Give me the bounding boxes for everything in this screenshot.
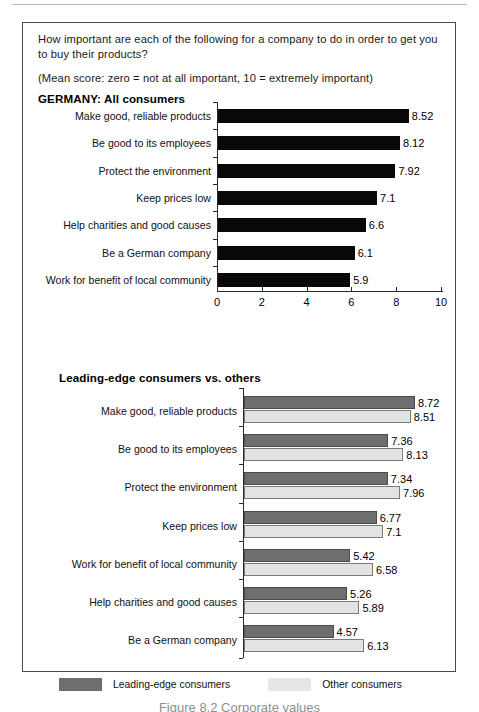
chart2-bar-value: 8.51 [414, 411, 435, 423]
page-top-rule [12, 4, 467, 5]
chart2-bar-other [244, 410, 411, 423]
legend-item-leading-edge: Leading-edge consumers [59, 678, 230, 691]
figure-caption: Figure 8.2 Corporate values [0, 700, 479, 712]
chart2-category-label: Be a German company [23, 634, 237, 646]
chart2-bar-value: 8.72 [418, 397, 439, 409]
chart2-bar-value: 5.89 [362, 602, 383, 614]
chart-title-leading-edge-vs-others: Leading-edge consumers vs. others [59, 371, 261, 384]
chart2-bar-other [244, 563, 373, 576]
chart2-bar-value: 8.13 [406, 449, 427, 461]
chart2-category-label: Help charities and good causes [23, 596, 237, 608]
chart2-bar-value: 4.57 [337, 626, 358, 638]
legend-item-other-consumers: Other consumers [268, 678, 402, 691]
chart2-bar-value: 6.58 [376, 564, 397, 576]
chart2-bar-leading-edge [244, 511, 377, 524]
chart2-bar-other [244, 601, 359, 614]
chart2-category-label: Protect the environment [23, 481, 237, 493]
chart2-bar-value: 6.77 [380, 512, 401, 524]
legend-label-other-consumers: Other consumers [322, 679, 402, 690]
chart2-bar-other [244, 525, 383, 538]
legend-swatch-light-icon [268, 678, 311, 691]
chart2-bar-other [244, 639, 364, 652]
chart2-category-tick [239, 388, 243, 389]
chart2-bar-value: 6.13 [367, 640, 388, 652]
chart2-bar-value: 7.1 [386, 526, 401, 538]
chart2-category-tick [239, 464, 243, 465]
chart2-category-label: Work for benefit of local community [23, 558, 237, 570]
chart2-bar-leading-edge [244, 625, 334, 638]
chart2-bar-leading-edge [244, 396, 415, 409]
chart2-bar-value: 7.34 [391, 473, 412, 485]
chart2-bar-value: 7.36 [391, 435, 412, 447]
chart2-bar-value: 7.96 [403, 487, 424, 499]
chart2-category-label: Make good, reliable products [23, 405, 237, 417]
chart2-category-tick [239, 541, 243, 542]
chart2-category-label: Be good to its employees [23, 443, 237, 455]
chart-leading-edge-vs-others: Make good, reliable products8.728.51Be g… [23, 23, 457, 323]
chart2-bar-value: 5.26 [350, 588, 371, 600]
chart2-bar-other [244, 448, 403, 461]
chart2-axis-end-tick [239, 658, 243, 659]
chart2-bar-leading-edge [244, 472, 388, 485]
chart-legend: Leading-edge consumers Other consumers [59, 678, 440, 691]
chart2-bar-leading-edge [244, 549, 350, 562]
legend-label-leading-edge: Leading-edge consumers [113, 679, 230, 690]
chart2-bar-leading-edge [244, 434, 388, 447]
chart2-category-label: Keep prices low [23, 520, 237, 532]
chart2-category-tick [239, 579, 243, 580]
legend-swatch-dark-icon [59, 678, 102, 691]
chart2-bar-leading-edge [244, 587, 347, 600]
chart2-bar-other [244, 486, 400, 499]
figure-box: How important are each of the following … [22, 22, 456, 672]
chart2-bar-value: 5.42 [353, 550, 374, 562]
chart2-category-tick [239, 503, 243, 504]
chart2-category-tick [239, 426, 243, 427]
chart2-category-tick [239, 617, 243, 618]
